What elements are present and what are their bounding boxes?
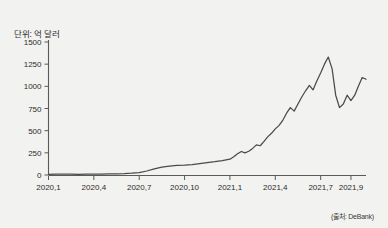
x-axis-group: 2020,12020,42020,72020,102021,12021,4202… bbox=[36, 176, 366, 193]
x-tick-label: 2021,9 bbox=[339, 183, 364, 192]
y-tick-label: 0 bbox=[37, 171, 42, 180]
y-ticks: 0250500750100012501500 bbox=[24, 38, 49, 180]
series-line-tvl bbox=[49, 57, 367, 174]
x-tick-label: 2020,10 bbox=[170, 183, 199, 192]
y-tick-label: 1250 bbox=[24, 60, 42, 69]
x-tick-label: 2021,7 bbox=[308, 183, 333, 192]
x-tick-label: 2021,4 bbox=[263, 183, 288, 192]
y-tick-label: 500 bbox=[28, 127, 42, 136]
y-axis-group: 0250500750100012501500 bbox=[24, 38, 49, 180]
x-tick-label: 2020,7 bbox=[127, 183, 152, 192]
y-tick-label: 1000 bbox=[24, 82, 42, 91]
x-tick-label: 2021,1 bbox=[218, 183, 243, 192]
y-tick-label: 1500 bbox=[24, 38, 42, 47]
line-chart-svg: 0250500750100012501500 2020,12020,42020,… bbox=[0, 0, 388, 228]
y-tick-label: 250 bbox=[28, 149, 42, 158]
source-attribution: (출처: DeBank) bbox=[331, 211, 374, 221]
series-group bbox=[49, 57, 367, 174]
x-ticks: 2020,12020,42020,72020,102021,12021,4202… bbox=[36, 176, 363, 192]
x-tick-label: 2020,1 bbox=[36, 183, 61, 192]
y-tick-label: 750 bbox=[28, 105, 42, 114]
x-tick-label: 2020,4 bbox=[82, 183, 107, 192]
chart-figure: 단위: 억 달러 0250500750100012501500 2020,120… bbox=[0, 0, 388, 228]
